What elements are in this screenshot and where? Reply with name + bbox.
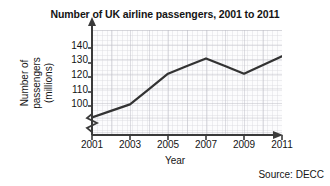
y-axis-title-line-1: Number of: [19, 57, 31, 109]
x-axis-title: Year: [120, 155, 230, 166]
chart-figure: Number of UK airline passengers, 2001 to…: [0, 0, 330, 186]
source-note: Source: DECC: [258, 169, 324, 180]
y-axis-title-line-2: passengers: [31, 57, 43, 109]
y-axis-arrow: [88, 17, 96, 26]
axis-overlay: [80, 18, 290, 148]
plot-area: [92, 30, 282, 135]
y-axis-title: Number of passengers (millions): [14, 30, 60, 135]
y-axis-title-line-3: (millions): [43, 57, 55, 109]
